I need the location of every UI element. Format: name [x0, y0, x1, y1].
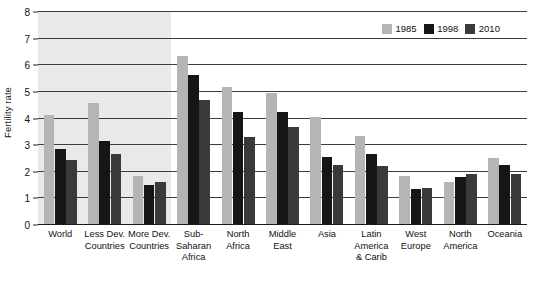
x-axis-label-line: East	[254, 241, 310, 253]
bar	[366, 154, 377, 225]
plot-area	[38, 12, 527, 225]
legend-item: 1998	[424, 23, 459, 34]
legend-label: 1985	[396, 23, 417, 34]
bar	[222, 87, 233, 225]
x-axis-label-line: America	[432, 241, 488, 253]
y-axis-tick-6: 6	[24, 60, 30, 71]
y-axis-tick-mark-7	[33, 38, 38, 39]
bar-group	[171, 12, 215, 225]
bar	[355, 136, 366, 225]
bar	[199, 100, 210, 225]
legend-item: 2010	[465, 23, 500, 34]
bar	[244, 137, 255, 225]
bar-group	[394, 12, 438, 225]
bar	[44, 115, 55, 225]
bar	[422, 188, 433, 225]
y-axis-tick-7: 7	[24, 33, 30, 44]
y-axis-tick-mark-0	[33, 225, 38, 226]
bar-group	[127, 12, 171, 225]
legend-swatch-1985	[382, 24, 392, 34]
bar-group	[38, 12, 82, 225]
bar	[88, 103, 99, 225]
y-axis-tick-mark-6	[33, 65, 38, 66]
y-axis-tick-1: 1	[24, 193, 30, 204]
bars-layer	[38, 12, 527, 225]
y-axis-tick-8: 8	[24, 7, 30, 18]
bar	[411, 189, 422, 225]
bar	[444, 182, 455, 225]
bar	[466, 174, 477, 225]
bar	[288, 127, 299, 226]
y-axis-title: Fertility rate	[0, 0, 16, 225]
bar	[177, 56, 188, 225]
bar	[111, 154, 122, 225]
y-axis-tick-mark-1	[33, 198, 38, 199]
bar	[511, 174, 522, 225]
bar	[499, 165, 510, 225]
bar-group	[349, 12, 393, 225]
bar-group	[216, 12, 260, 225]
y-axis-tick-5: 5	[24, 86, 30, 97]
bar	[99, 141, 110, 225]
legend-label: 1998	[437, 23, 458, 34]
bar	[144, 185, 155, 225]
bar	[333, 165, 344, 225]
bar	[233, 112, 244, 225]
bar	[188, 75, 199, 225]
x-axis-category-labels: WorldLess Dev.CountriesMore Dev.Countrie…	[38, 229, 527, 283]
y-axis-tick-mark-3	[33, 145, 38, 146]
fertility-rate-bar-chart: Fertility rate 012345678 WorldLess Dev.C…	[0, 0, 533, 283]
x-axis-label-line: & Carib	[343, 252, 399, 264]
bar	[377, 166, 388, 225]
legend-item: 1985	[382, 23, 417, 34]
bar	[310, 117, 321, 225]
bar-group	[305, 12, 349, 225]
legend-swatch-1998	[424, 24, 434, 34]
y-axis-tick-4: 4	[24, 113, 30, 124]
bar	[133, 176, 144, 225]
bar	[488, 158, 499, 225]
chart-legend: 198519982010	[382, 23, 500, 34]
x-axis-label-10: Oceania	[477, 229, 533, 241]
y-axis-tick-0: 0	[24, 220, 30, 231]
y-axis-tick-3: 3	[24, 140, 30, 151]
x-axis-baseline	[38, 224, 527, 226]
y-axis-tick-mark-5	[33, 91, 38, 92]
bar	[55, 149, 66, 225]
x-axis-label-line: Africa	[165, 252, 221, 264]
y-axis-title-text: Fertility rate	[3, 87, 14, 138]
bar	[277, 112, 288, 225]
bar	[66, 160, 77, 225]
bar-group	[260, 12, 304, 225]
bar	[155, 182, 166, 225]
legend-swatch-2010	[465, 24, 475, 34]
x-axis-label-line: Oceania	[477, 229, 533, 241]
bar	[322, 157, 333, 225]
bar-group	[438, 12, 482, 225]
y-axis-tick-mark-2	[33, 171, 38, 172]
y-axis-tick-labels: 012345678	[16, 0, 32, 225]
bar	[266, 93, 277, 225]
bar	[399, 176, 410, 225]
bar	[455, 177, 466, 225]
bar-group	[82, 12, 126, 225]
y-axis-tick-mark-8	[33, 12, 38, 13]
y-axis-tick-mark-4	[33, 118, 38, 119]
y-axis-tick-2: 2	[24, 166, 30, 177]
legend-label: 2010	[479, 23, 500, 34]
bar-group	[483, 12, 527, 225]
